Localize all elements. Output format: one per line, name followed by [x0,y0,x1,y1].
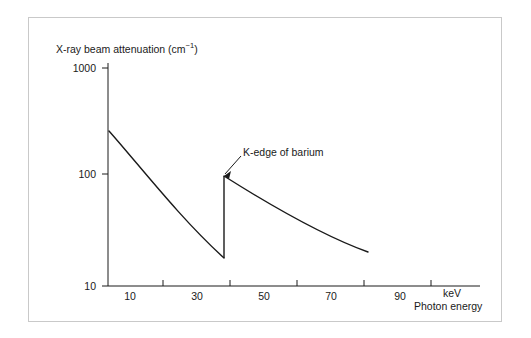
curve-after-k-edge [224,176,368,252]
x-tick-label-30: 30 [182,290,212,302]
x-tick-label-50: 50 [249,290,279,302]
x-tick-label-70: 70 [316,290,346,302]
y-tick-label-1000: 1000 [60,62,96,74]
y-axis-title-exponent: −1 [186,41,195,50]
y-axis-title-close: ) [194,43,198,55]
x-axis-title: Photon energy [414,301,482,313]
y-axis-title-main: X-ray beam attenuation (cm [56,43,186,55]
x-tick-label-90: 90 [385,290,415,302]
curve-before-k-edge [109,131,224,258]
figure-root: X-ray beam attenuation (cm−1) 1000 100 1… [0,0,531,338]
x-tick-label-10: 10 [115,290,145,302]
k-edge-arrow-line [225,156,241,174]
y-tick-label-10: 10 [60,280,96,292]
k-edge-arrow-head [224,171,231,179]
x-axis-unit-label: keV [443,288,461,300]
y-axis-title: X-ray beam attenuation (cm−1) [56,42,198,55]
y-tick-label-100: 100 [60,168,96,180]
k-edge-annotation-label: K-edge of barium [243,146,324,158]
